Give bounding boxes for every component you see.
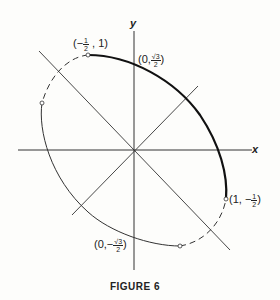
ellipse-arc-dashed-left — [42, 55, 88, 103]
x-axis-label: x — [252, 144, 258, 155]
point-marker-upper — [86, 53, 90, 57]
point-marker-left — [40, 101, 44, 105]
point-label-one-neg-half: (1, −12) — [229, 193, 261, 208]
figure-caption: FIGURE 6 — [0, 281, 270, 292]
ellipse-diagram — [0, 0, 280, 300]
y-axis-label: y — [130, 18, 136, 29]
point-marker-bottom — [178, 244, 182, 248]
point-label-zero-neg-root3-half: (0,−√32) — [94, 238, 127, 253]
ellipse-arc-thin — [41, 103, 180, 246]
point-label-neg-half-one: (−12 , 1) — [73, 37, 108, 52]
point-marker-right — [224, 197, 228, 201]
point-label-zero-root3-half: (0,√32) — [138, 53, 164, 68]
